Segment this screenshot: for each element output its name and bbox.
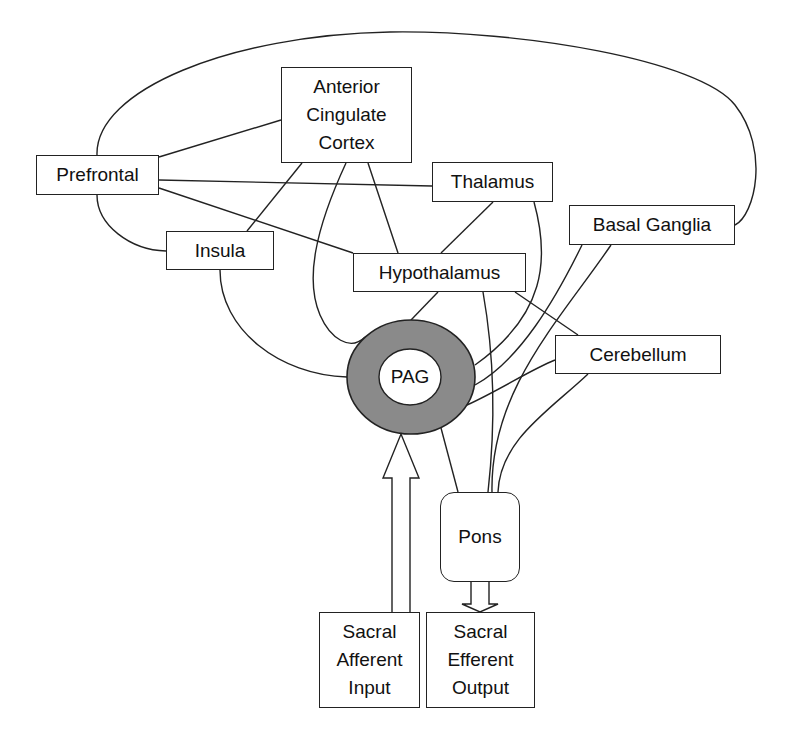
- node-basal-ganglia: Basal Ganglia: [569, 205, 735, 245]
- node-hypothalamus: Hypothalamus: [353, 253, 526, 292]
- edge-pag-pons: [441, 428, 458, 492]
- sacral-afferent-label: Sacral Afferent Input: [336, 618, 402, 702]
- cerebellum-label: Cerebellum: [589, 341, 686, 369]
- node-prefrontal: Prefrontal: [36, 155, 159, 195]
- edge-acc-insula: [247, 163, 302, 231]
- node-thalamus: Thalamus: [432, 162, 553, 202]
- prefrontal-label: Prefrontal: [56, 161, 138, 189]
- node-pag: PAG: [379, 349, 441, 405]
- insula-label: Insula: [195, 237, 246, 265]
- edge-prefrontal-thalamus: [159, 180, 432, 186]
- edge-cerebellum-pons: [498, 374, 588, 492]
- node-sacral-efferent-output: Sacral Efferent Output: [426, 612, 535, 708]
- efferent-arrow: [462, 582, 498, 612]
- afferent-arrow: [383, 434, 419, 612]
- edge-acc-hypothalamus: [368, 163, 398, 253]
- pons-label: Pons: [458, 523, 501, 551]
- sacral-efferent-label: Sacral Efferent Output: [447, 618, 513, 702]
- node-sacral-afferent-input: Sacral Afferent Input: [319, 612, 420, 708]
- node-pons: Pons: [440, 492, 520, 582]
- edge-thalamus-hypothalamus: [441, 202, 493, 253]
- edge-insula-pag: [220, 270, 347, 377]
- basal-ganglia-label: Basal Ganglia: [593, 211, 711, 239]
- edge-prefrontal-acc: [159, 120, 281, 157]
- edge-hypothalamus-pons: [483, 292, 493, 492]
- node-insula: Insula: [166, 231, 274, 270]
- edge-hypothalamus-pag: [411, 292, 438, 320]
- node-anterior-cingulate-cortex: Anterior Cingulate Cortex: [281, 67, 412, 163]
- hypothalamus-label: Hypothalamus: [379, 259, 500, 287]
- acc-label: Anterior Cingulate Cortex: [306, 73, 386, 157]
- edge-prefrontal-insula: [97, 195, 166, 251]
- pag-label: PAG: [391, 366, 430, 388]
- edge-prefrontal-basal-ganglia: [97, 32, 756, 225]
- thalamus-label: Thalamus: [451, 168, 534, 196]
- node-cerebellum: Cerebellum: [555, 335, 721, 374]
